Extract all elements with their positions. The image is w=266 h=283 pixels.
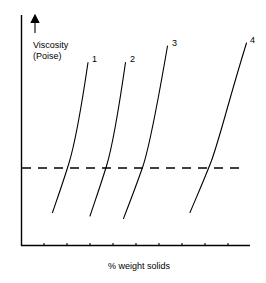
- y-axis-label-line-2: (Poise): [33, 51, 68, 62]
- up-arrow-icon: [31, 15, 39, 33]
- x-axis-label-container: % weight solids: [0, 261, 266, 271]
- curve-label-1: 1: [92, 54, 97, 64]
- curve-2: [90, 63, 126, 217]
- chart-figure: 1 2 3 4 Viscosity (Poise) % weight solid…: [0, 0, 266, 283]
- curve-label-3: 3: [172, 38, 177, 48]
- curve-1: [53, 63, 89, 213]
- y-axis-label: Viscosity (Poise): [33, 40, 68, 62]
- curve-label-4: 4: [250, 35, 255, 45]
- curve-3: [124, 46, 168, 219]
- curve-4: [190, 43, 247, 213]
- y-axis-label-line-1: Viscosity: [33, 40, 68, 51]
- curve-label-2: 2: [130, 54, 135, 64]
- x-axis-label: % weight solids: [96, 261, 170, 271]
- x-axis-ticks: [44, 243, 228, 245]
